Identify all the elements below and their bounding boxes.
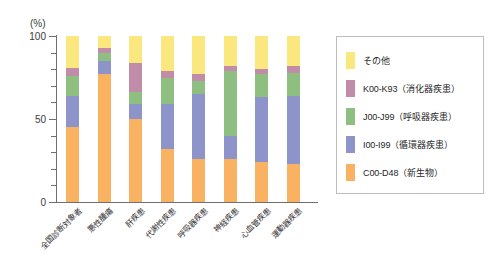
bar-segment-I00-I99	[192, 94, 205, 159]
x-label-運動器疾患: 運動器疾患	[268, 205, 303, 240]
bar-肝疾患	[129, 36, 142, 202]
bar-segment-C00-D48	[255, 162, 268, 202]
stacked-bar-chart: (%) 050100 全国診断対象者悪性腫瘍肝疾患代謝性疾患呼吸器疾患神経疾患心…	[0, 0, 495, 273]
bar-segment-C00-D48	[66, 127, 79, 202]
y-tick-80	[51, 69, 56, 70]
y-tick-70	[51, 86, 56, 87]
legend-swatch-icon	[346, 108, 355, 125]
legend-label: I00-I99（循環器疾患）	[363, 138, 453, 151]
y-tick-90	[51, 53, 56, 54]
bar-segment-J00-J99	[255, 74, 268, 97]
legend-label: その他	[363, 54, 390, 67]
legend-swatch-icon	[346, 136, 355, 153]
bar-segment-J00-J99	[287, 73, 300, 96]
bar-segment-C00-D48	[129, 119, 142, 202]
x-label-心血管疾患: 心血管疾患	[237, 205, 272, 240]
bar-segment-K00-K93	[161, 71, 174, 78]
y-tick-100	[49, 36, 56, 37]
bar-segment-I00-I99	[287, 96, 300, 164]
y-tick-40	[51, 136, 56, 137]
legend-swatch-icon	[346, 80, 355, 97]
bar-segment-J00-J99	[161, 78, 174, 105]
bar-運動器疾患	[287, 36, 300, 202]
y-tick-30	[51, 152, 56, 153]
bar-segment-	[287, 36, 300, 66]
bar-心血管疾患	[255, 36, 268, 202]
bar-segment-C00-D48	[224, 159, 237, 202]
legend-item-I00-I99（循環器疾患）[interactable]: I00-I99（循環器疾患）	[346, 130, 483, 158]
bar-神経疾患	[224, 36, 237, 202]
x-label-肝疾患: 肝疾患	[122, 205, 146, 229]
bar-segment-J00-J99	[192, 81, 205, 94]
x-label-神経疾患: 神経疾患	[211, 205, 241, 235]
y-tick-10	[51, 185, 56, 186]
y-tick-50	[49, 119, 56, 120]
bar-全国診断対象者	[66, 36, 79, 202]
bar-segment-I00-I99	[224, 136, 237, 159]
x-label-代謝性疾患: 代謝性疾患	[142, 205, 177, 240]
bar-代謝性疾患	[161, 36, 174, 202]
y-tick-0	[49, 202, 56, 203]
y-tick-label-100: 100	[18, 31, 46, 42]
bar-segment-K00-K93	[129, 63, 142, 93]
bar-segment-J00-J99	[66, 76, 79, 96]
y-tick-20	[51, 169, 56, 170]
x-label-悪性腫瘍: 悪性腫瘍	[85, 205, 115, 235]
bar-segment-J00-J99	[224, 71, 237, 136]
bar-segment-K00-K93	[66, 68, 79, 76]
bar-segment-	[98, 36, 111, 48]
legend-label: K00-K93（消化器疾患）	[363, 82, 460, 95]
bar-呼吸器疾患	[192, 36, 205, 202]
legend-item-J00-J99（呼吸器疾患）[interactable]: J00-J99（呼吸器疾患）	[346, 102, 483, 130]
bar-segment-C00-D48	[192, 159, 205, 202]
bar-segment-I00-I99	[255, 97, 268, 162]
bar-segment-I00-I99	[66, 96, 79, 128]
bar-segment-C00-D48	[287, 164, 300, 202]
bar-segment-C00-D48	[161, 149, 174, 202]
x-axis-line	[56, 202, 318, 203]
bar-segment-J00-J99	[98, 53, 111, 61]
bar-segment-J00-J99	[129, 92, 142, 104]
legend-item-C00-D48（新生物）[interactable]: C00-D48（新生物）	[346, 158, 483, 186]
y-tick-60	[51, 102, 56, 103]
bar-segment-K00-K93	[192, 74, 205, 81]
bar-segment-I00-I99	[129, 104, 142, 119]
bar-segment-K00-K93	[287, 66, 300, 73]
legend-item-K00-K93（消化器疾患）[interactable]: K00-K93（消化器疾患）	[346, 74, 483, 102]
bar-segment-	[255, 36, 268, 69]
bar-segment-	[129, 36, 142, 63]
chart-legend: その他K00-K93（消化器疾患）J00-J99（呼吸器疾患）I00-I99（循…	[336, 36, 484, 194]
y-tick-label-50: 50	[18, 114, 46, 125]
x-label-呼吸器疾患: 呼吸器疾患	[174, 205, 209, 240]
bar-segment-I00-I99	[161, 104, 174, 149]
bar-segment-I00-I99	[98, 61, 111, 74]
bar-segment-	[224, 36, 237, 66]
bar-segment-	[161, 36, 174, 71]
y-axis-unit-label: (%)	[30, 18, 46, 29]
bar-segment-C00-D48	[98, 74, 111, 202]
legend-label: J00-J99（呼吸器疾患）	[363, 110, 457, 123]
bar-segment-	[66, 36, 79, 68]
plot-area	[57, 36, 315, 202]
legend-swatch-icon	[346, 164, 355, 181]
bar-悪性腫瘍	[98, 36, 111, 202]
y-tick-label-0: 0	[18, 197, 46, 208]
legend-item-その他[interactable]: その他	[346, 46, 483, 74]
x-label-全国診断対象者: 全国診断対象者	[37, 205, 83, 251]
bar-segment-	[192, 36, 205, 74]
legend-label: C00-D48（新生物）	[363, 166, 443, 179]
legend-swatch-icon	[346, 52, 355, 69]
